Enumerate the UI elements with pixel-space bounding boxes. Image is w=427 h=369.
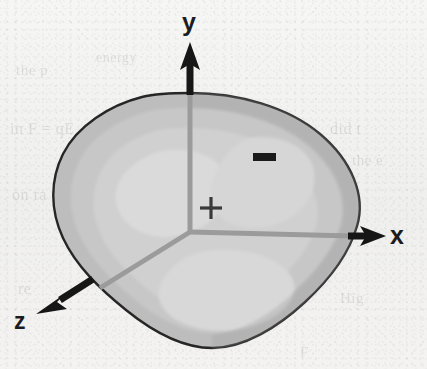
figure-canvas: the penergyin F = qEthe fdid tan ththe e… xyxy=(0,0,427,369)
deformed-body xyxy=(53,93,359,348)
z-axis-arrow xyxy=(36,279,93,314)
minus-sign-marker xyxy=(253,153,276,161)
diagram-svg xyxy=(0,0,427,369)
y-axis-arrow xyxy=(180,42,200,95)
